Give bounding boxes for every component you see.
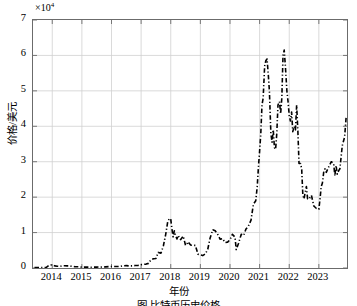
x-tick-label: 2023: [298, 271, 338, 282]
y-tick-label: 5: [0, 84, 26, 94]
y-tick-label: 4: [0, 119, 26, 129]
tick-label-layer: 0123456720142015201620172018201920202021…: [0, 0, 357, 306]
y-tick-label: 7: [0, 13, 26, 23]
y-tick-label: 3: [0, 155, 26, 165]
x-axis-title: 年份: [0, 283, 357, 298]
figure-caption: 图 比特币历史价格: [0, 297, 357, 306]
y-tick-label: 0: [0, 261, 26, 271]
chart-figure-root: ×104 价格/美元 01234567201420152016201720182…: [0, 0, 357, 306]
y-tick-label: 6: [0, 48, 26, 58]
y-tick-label: 1: [0, 226, 26, 236]
figure-canvas: ×104 价格/美元 01234567201420152016201720182…: [0, 0, 357, 306]
y-tick-label: 2: [0, 190, 26, 200]
